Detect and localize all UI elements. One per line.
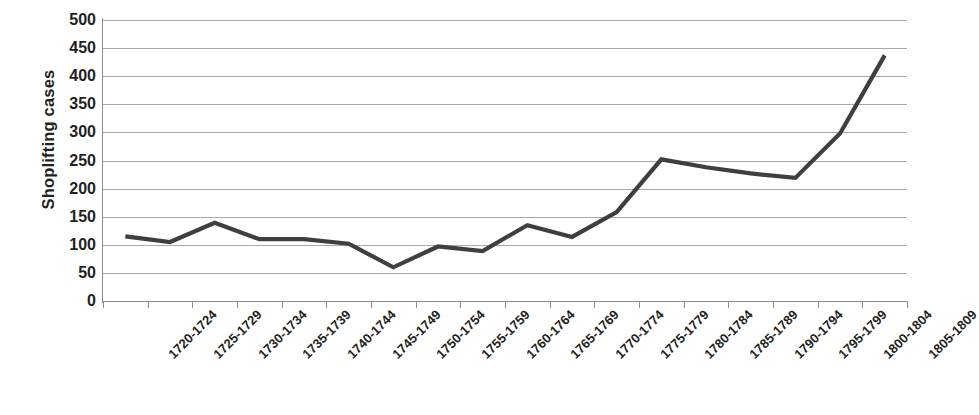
y-axis-tick-label: 350 — [69, 95, 96, 113]
x-axis-tick-labels: 1720-17241725-17291730-17341735-17391740… — [103, 301, 907, 415]
y-axis-tick-label: 0 — [87, 292, 96, 310]
y-axis-tick-label: 500 — [69, 11, 96, 29]
y-axis-tick-label: 100 — [69, 236, 96, 254]
x-axis-tick-label: 1755-1759 — [478, 307, 533, 362]
y-axis-tick-labels: 500450400350300250200150100500 — [44, 0, 96, 415]
x-axis-tick-label: 1800-1804 — [880, 307, 935, 362]
y-axis-tick-label: 250 — [69, 152, 96, 170]
x-axis-tick-label: 1770-1774 — [612, 307, 667, 362]
x-axis-tick — [907, 301, 908, 308]
data-series-line — [125, 55, 884, 267]
y-axis-tick-label: 200 — [69, 180, 96, 198]
series-line-shoplifting-cases — [103, 20, 907, 301]
x-axis-tick-label: 1725-1729 — [210, 307, 265, 362]
x-axis-tick-label: 1785-1789 — [746, 307, 801, 362]
y-axis-tick-label: 450 — [69, 39, 96, 57]
y-axis-tick-label: 400 — [69, 67, 96, 85]
plot-area — [103, 20, 907, 301]
y-axis-tick-label: 50 — [78, 264, 96, 282]
y-axis-tick-label: 300 — [69, 123, 96, 141]
x-axis-tick-label: 1740-1744 — [344, 307, 399, 362]
y-axis-tick-label: 150 — [69, 208, 96, 226]
